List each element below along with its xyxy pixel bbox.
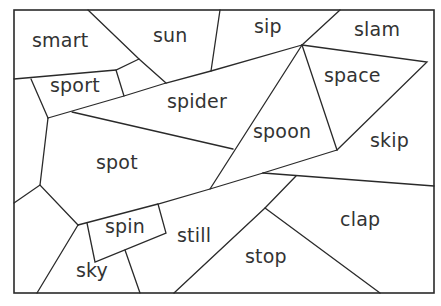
- word-sip: sip: [254, 17, 282, 36]
- word-stop: stop: [245, 247, 287, 266]
- edge-sport-right: [116, 70, 124, 96]
- edge-spoon-spider: [210, 45, 302, 189]
- word-smart: smart: [32, 31, 88, 50]
- word-clap: clap: [340, 210, 380, 229]
- word-spot: spot: [96, 153, 138, 172]
- edge-left-small: [14, 185, 78, 225]
- word-space: space: [324, 66, 381, 85]
- word-sun: sun: [153, 26, 188, 45]
- word-sky: sky: [76, 261, 108, 280]
- word-skip: skip: [370, 131, 409, 150]
- edge-sport-left: [31, 79, 48, 118]
- edge-spot-left: [40, 118, 48, 185]
- word-still: still: [177, 226, 211, 245]
- word-sport: sport: [50, 76, 100, 95]
- edge-sun-sip: [211, 10, 220, 71]
- word-slam: slam: [354, 20, 400, 39]
- edge-sip-slam: [302, 10, 340, 45]
- edge-sky-right: [125, 250, 140, 293]
- word-spin: spin: [105, 217, 145, 236]
- edge-spider-bottom: [72, 112, 233, 149]
- edge-sky-left: [37, 225, 78, 293]
- word-spoon: spoon: [253, 122, 311, 141]
- edge-spoon-bottom: [263, 150, 337, 173]
- puzzle-border: [14, 10, 434, 293]
- word-spider: spider: [167, 92, 227, 111]
